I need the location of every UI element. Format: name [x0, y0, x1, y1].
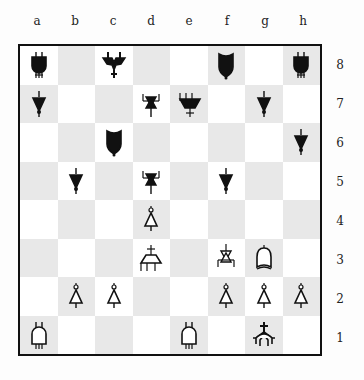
white-knight-icon[interactable] — [213, 243, 239, 273]
white-pawn-icon[interactable] — [213, 281, 239, 311]
square-c1[interactable] — [95, 316, 133, 355]
square-f5[interactable] — [208, 162, 246, 201]
square-h5[interactable] — [283, 162, 321, 201]
square-a5[interactable] — [20, 162, 58, 201]
black-pawn-icon[interactable] — [26, 89, 52, 119]
square-h3[interactable] — [283, 239, 321, 278]
square-h7[interactable] — [283, 85, 321, 124]
white-rook-icon[interactable] — [26, 320, 52, 350]
square-b4[interactable] — [58, 200, 96, 239]
square-b8[interactable] — [58, 46, 96, 85]
white-king-icon[interactable] — [251, 320, 277, 350]
square-a7[interactable] — [20, 85, 58, 124]
white-pawn-icon[interactable] — [63, 281, 89, 311]
square-d3[interactable] — [133, 239, 171, 278]
white-pawn-icon[interactable] — [101, 281, 127, 311]
square-a6[interactable] — [20, 123, 58, 162]
square-b3[interactable] — [58, 239, 96, 278]
square-d2[interactable] — [133, 277, 171, 316]
square-a4[interactable] — [20, 200, 58, 239]
square-f6[interactable] — [208, 123, 246, 162]
square-g1[interactable] — [245, 316, 283, 355]
square-c3[interactable] — [95, 239, 133, 278]
rank-label: 7 — [330, 84, 350, 123]
black-knight-icon[interactable] — [138, 89, 164, 119]
square-g4[interactable] — [245, 200, 283, 239]
black-rook-icon[interactable] — [26, 50, 52, 80]
white-rook-icon[interactable] — [176, 320, 202, 350]
file-label: h — [284, 14, 322, 30]
file-label: f — [208, 14, 246, 30]
square-a3[interactable] — [20, 239, 58, 278]
square-f2[interactable] — [208, 277, 246, 316]
file-label: b — [56, 14, 94, 30]
square-e2[interactable] — [170, 277, 208, 316]
square-g3[interactable] — [245, 239, 283, 278]
square-e8[interactable] — [170, 46, 208, 85]
square-e1[interactable] — [170, 316, 208, 355]
square-d8[interactable] — [133, 46, 171, 85]
square-b5[interactable] — [58, 162, 96, 201]
square-g8[interactable] — [245, 46, 283, 85]
square-h8[interactable] — [283, 46, 321, 85]
square-d1[interactable] — [133, 316, 171, 355]
square-e6[interactable] — [170, 123, 208, 162]
square-a2[interactable] — [20, 277, 58, 316]
square-e4[interactable] — [170, 200, 208, 239]
square-e5[interactable] — [170, 162, 208, 201]
square-c8[interactable] — [95, 46, 133, 85]
square-e7[interactable] — [170, 85, 208, 124]
square-g6[interactable] — [245, 123, 283, 162]
black-pawn-icon[interactable] — [288, 127, 314, 157]
file-label: a — [18, 14, 56, 30]
rank-label: 1 — [330, 318, 350, 357]
black-king-icon[interactable] — [101, 50, 127, 80]
square-d7[interactable] — [133, 85, 171, 124]
square-a1[interactable] — [20, 316, 58, 355]
black-rook-icon[interactable] — [288, 50, 314, 80]
square-f4[interactable] — [208, 200, 246, 239]
white-bishop-icon[interactable] — [251, 243, 277, 273]
rank-label: 5 — [330, 162, 350, 201]
square-h2[interactable] — [283, 277, 321, 316]
white-pawn-icon[interactable] — [138, 204, 164, 234]
rank-label: 4 — [330, 201, 350, 240]
white-pawn-icon[interactable] — [288, 281, 314, 311]
black-pawn-icon[interactable] — [251, 89, 277, 119]
square-g5[interactable] — [245, 162, 283, 201]
square-h1[interactable] — [283, 316, 321, 355]
square-b7[interactable] — [58, 85, 96, 124]
square-f8[interactable] — [208, 46, 246, 85]
square-h4[interactable] — [283, 200, 321, 239]
black-knight-icon[interactable] — [138, 166, 164, 196]
square-e3[interactable] — [170, 239, 208, 278]
black-pawn-icon[interactable] — [63, 166, 89, 196]
square-c6[interactable] — [95, 123, 133, 162]
black-queen-icon[interactable] — [176, 89, 202, 119]
square-b2[interactable] — [58, 277, 96, 316]
square-b1[interactable] — [58, 316, 96, 355]
square-d5[interactable] — [133, 162, 171, 201]
square-b6[interactable] — [58, 123, 96, 162]
rank-label: 6 — [330, 123, 350, 162]
black-bishop-icon[interactable] — [101, 127, 127, 157]
rank-label: 8 — [330, 45, 350, 84]
square-c5[interactable] — [95, 162, 133, 201]
square-d6[interactable] — [133, 123, 171, 162]
square-g7[interactable] — [245, 85, 283, 124]
black-bishop-icon[interactable] — [213, 50, 239, 80]
square-f3[interactable] — [208, 239, 246, 278]
square-a8[interactable] — [20, 46, 58, 85]
square-f1[interactable] — [208, 316, 246, 355]
black-pawn-icon[interactable] — [213, 166, 239, 196]
white-queen-icon[interactable] — [138, 243, 164, 273]
square-d4[interactable] — [133, 200, 171, 239]
square-c4[interactable] — [95, 200, 133, 239]
square-g2[interactable] — [245, 277, 283, 316]
square-h6[interactable] — [283, 123, 321, 162]
rank-label: 3 — [330, 240, 350, 279]
square-c2[interactable] — [95, 277, 133, 316]
white-pawn-icon[interactable] — [251, 281, 277, 311]
square-c7[interactable] — [95, 85, 133, 124]
square-f7[interactable] — [208, 85, 246, 124]
